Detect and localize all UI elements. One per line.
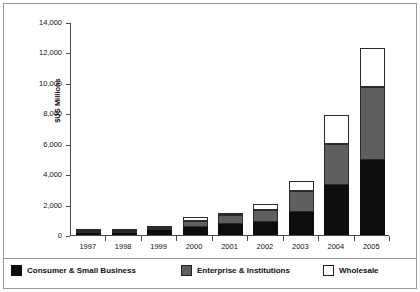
- chart-figure: $US Millions 02,0004,0006,0008,00010,000…: [0, 0, 420, 292]
- y-tick: 6,000: [0, 145, 70, 146]
- y-tick-label: 2,000: [43, 201, 62, 210]
- legend-item-0[interactable]: Consumer & Small Business: [11, 265, 136, 276]
- bar-segment-2000-s0: [183, 227, 208, 235]
- x-tick-label-2005: 2005: [353, 242, 389, 251]
- legend-item-2[interactable]: Wholesale: [323, 265, 379, 276]
- y-tick: 0: [0, 236, 70, 237]
- bar-2003: [289, 181, 314, 235]
- x-tick-label-2003: 2003: [282, 242, 318, 251]
- bar-segment-1998-s0: [112, 233, 137, 235]
- legend-label: Enterprise & Institutions: [197, 266, 290, 275]
- bar-segment-2004-s1: [324, 144, 349, 185]
- x-tick-mark: [389, 236, 390, 241]
- x-tick-mark: [354, 236, 355, 241]
- bar-2005: [360, 48, 385, 235]
- x-tick-mark: [318, 236, 319, 241]
- bar-1999: [147, 226, 172, 235]
- x-tick-mark: [176, 236, 177, 241]
- legend-item-1[interactable]: Enterprise & Institutions: [181, 265, 290, 276]
- x-tick-mark: [105, 236, 106, 241]
- bar-segment-2003-s1: [289, 191, 314, 212]
- legend-label: Consumer & Small Business: [27, 266, 136, 275]
- bar-segment-2002-s0: [253, 222, 278, 235]
- plot-wrapper: $US Millions 02,0004,0006,0008,00010,000…: [0, 0, 420, 254]
- bar-segment-2002-s1: [253, 210, 278, 222]
- x-tick-label-1997: 1997: [70, 242, 106, 251]
- bar-segment-2001-s1: [218, 215, 243, 224]
- bar-segment-2004-s2: [324, 115, 349, 144]
- black-square-icon: [11, 265, 22, 276]
- y-tick-label: 8,000: [43, 109, 62, 118]
- bar-segment-2004-s0: [324, 185, 349, 235]
- y-tick-label: 12,000: [39, 48, 62, 57]
- bar-segment-2003-s2: [289, 181, 314, 191]
- bar-2004: [324, 115, 349, 235]
- bar-2000: [183, 217, 208, 235]
- legend-label: Wholesale: [339, 266, 379, 275]
- y-tick: 14,000: [0, 23, 70, 24]
- bar-segment-2005-s1: [360, 87, 385, 160]
- y-tick-label: 6,000: [43, 140, 62, 149]
- bar-1998: [112, 229, 137, 235]
- bar-segment-1999-s0: [147, 230, 172, 235]
- bar-1997: [76, 229, 101, 235]
- x-tick-label-2000: 2000: [176, 242, 212, 251]
- y-tick: 12,000: [0, 53, 70, 54]
- bar-segment-2005-s0: [360, 160, 385, 235]
- white-square-icon: [323, 265, 334, 276]
- x-tick-label-2002: 2002: [247, 242, 283, 251]
- bar-2002: [253, 204, 278, 235]
- y-tick-label: 14,000: [39, 18, 62, 27]
- y-tick-label: 10,000: [39, 79, 62, 88]
- x-tick-label-1999: 1999: [141, 242, 177, 251]
- y-tick: 4,000: [0, 175, 70, 176]
- y-tick-label: 4,000: [43, 170, 62, 179]
- bar-segment-2001-s0: [218, 224, 243, 235]
- chart-legend: Consumer & Small BusinessEnterprise & In…: [3, 258, 417, 286]
- x-tick-label-1998: 1998: [105, 242, 141, 251]
- y-tick: 10,000: [0, 84, 70, 85]
- x-tick-mark: [212, 236, 213, 241]
- gray-square-icon: [181, 265, 192, 276]
- x-tick-mark: [283, 236, 284, 241]
- bar-segment-1997-s0: [76, 233, 101, 235]
- x-tick-label-2004: 2004: [318, 242, 354, 251]
- x-tick-mark: [247, 236, 248, 241]
- bar-segment-2003-s0: [289, 212, 314, 235]
- x-tick-mark: [141, 236, 142, 241]
- y-tick: 2,000: [0, 206, 70, 207]
- y-tick-mark: [66, 236, 70, 237]
- y-tick-label: 0: [58, 231, 62, 240]
- x-tick-label-2001: 2001: [212, 242, 248, 251]
- y-tick: 8,000: [0, 114, 70, 115]
- bar-segment-2005-s2: [360, 48, 385, 88]
- bar-2001: [218, 213, 243, 235]
- plot-area: [70, 23, 389, 236]
